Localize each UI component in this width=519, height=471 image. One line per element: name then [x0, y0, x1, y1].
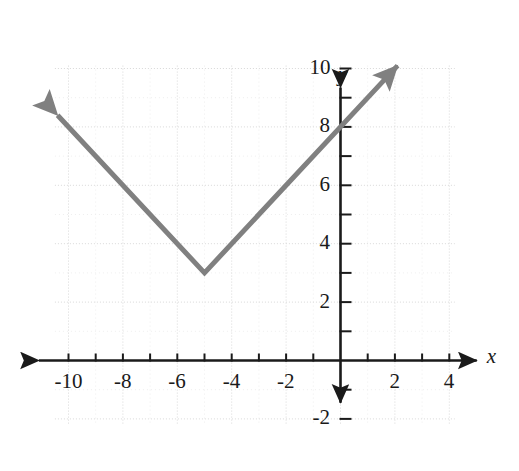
plot-background	[0, 0, 519, 471]
y-tick-label: 2	[320, 291, 331, 312]
x-tick-label: -10	[55, 371, 83, 392]
y-tick-label: 8	[320, 115, 331, 136]
y-tick-label: -2	[313, 407, 331, 428]
y-axis-name-label: y	[338, 64, 347, 85]
y-tick-label: 4	[320, 232, 331, 253]
x-tick-label: -4	[223, 371, 241, 392]
graph-figure: -10-8-6-4-224108642-2xy	[0, 0, 519, 471]
x-tick-label: 4	[444, 371, 455, 392]
x-tick-label: -6	[168, 371, 186, 392]
x-tick-label: -2	[277, 371, 295, 392]
x-tick-label: -8	[114, 371, 132, 392]
x-tick-label: 2	[389, 371, 400, 392]
y-tick-label: 6	[320, 174, 331, 195]
x-axis-name-label: x	[487, 346, 496, 367]
y-tick-label: 10	[310, 57, 331, 78]
coordinate-plane-svg	[0, 0, 519, 471]
